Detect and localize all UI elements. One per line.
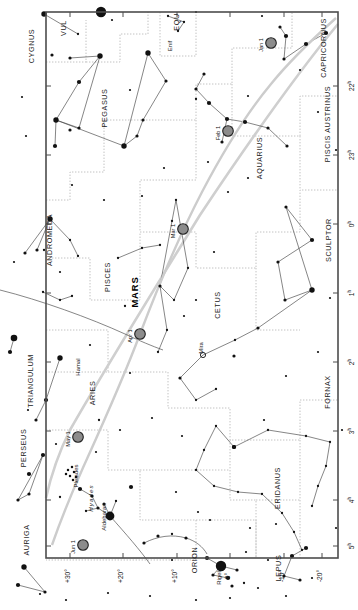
star xyxy=(257,587,259,589)
star xyxy=(197,511,199,513)
star xyxy=(195,469,197,471)
star xyxy=(341,429,343,431)
mars-marker-label: Jan 1 xyxy=(258,38,264,52)
star xyxy=(178,376,181,379)
star xyxy=(237,491,239,493)
star xyxy=(284,205,287,208)
star xyxy=(247,95,249,97)
star xyxy=(285,144,288,147)
star xyxy=(301,549,303,551)
star xyxy=(97,53,102,58)
star xyxy=(41,453,45,457)
star xyxy=(230,584,233,587)
mars-marker-dot[interactable] xyxy=(135,329,146,340)
star xyxy=(282,57,285,60)
dec-axis-label: 0° xyxy=(224,572,231,579)
star xyxy=(215,388,217,390)
star xyxy=(245,551,247,553)
star xyxy=(267,429,269,431)
star xyxy=(59,299,61,301)
star xyxy=(299,69,301,71)
star xyxy=(195,399,197,401)
mars-marker-label: Jun 1 xyxy=(70,540,76,554)
star xyxy=(267,559,269,561)
star xyxy=(34,418,37,421)
star xyxy=(167,15,169,17)
star-chart-svg: Jan 1Feb 1Mar 1Apr 1May 1Jun 1 22h23h0h1… xyxy=(0,0,358,610)
star xyxy=(225,117,229,121)
constellation-label: LEPUS xyxy=(274,555,283,582)
star xyxy=(156,534,159,537)
constellation-label: ORION xyxy=(190,547,199,574)
star xyxy=(284,34,288,38)
star xyxy=(304,42,308,46)
star xyxy=(129,89,131,91)
star xyxy=(175,199,177,201)
star xyxy=(234,339,236,341)
star xyxy=(71,295,73,297)
star xyxy=(59,271,61,273)
star xyxy=(21,564,26,569)
star xyxy=(157,351,159,353)
star xyxy=(55,443,57,445)
constellation-label: ERIDANUS xyxy=(273,467,282,509)
star xyxy=(215,425,217,427)
constellation-label: ANDROMEDA xyxy=(45,214,54,266)
star xyxy=(278,25,281,28)
constellation-label: FORNAX xyxy=(323,375,332,409)
star xyxy=(317,351,319,353)
star xyxy=(195,299,197,301)
dec-axis-label: +20° xyxy=(117,569,124,583)
star xyxy=(243,120,247,124)
star xyxy=(229,597,231,599)
mars-marker-dot[interactable] xyxy=(178,224,189,235)
star xyxy=(25,135,27,137)
star xyxy=(107,592,109,594)
mars-marker-dot[interactable] xyxy=(78,540,89,551)
star-label: Mira xyxy=(198,342,204,354)
star xyxy=(317,111,319,113)
star xyxy=(53,144,57,148)
mars-marker-dot[interactable] xyxy=(73,432,84,443)
constellation-label: PISCIS AUSTRINUS xyxy=(323,86,332,162)
star xyxy=(23,251,26,254)
star xyxy=(50,53,53,56)
star xyxy=(311,577,313,579)
star xyxy=(27,492,30,495)
star xyxy=(261,493,263,495)
star xyxy=(173,299,175,301)
star xyxy=(304,546,308,550)
star xyxy=(149,595,151,597)
pleiades-star xyxy=(69,475,72,478)
star xyxy=(95,451,97,453)
star-rigel xyxy=(216,561,226,571)
star xyxy=(249,527,251,529)
star-label: Rigel xyxy=(216,571,222,585)
constellation-label: PEGASUS xyxy=(100,89,109,128)
star xyxy=(27,409,29,411)
star xyxy=(211,573,214,576)
star xyxy=(207,161,209,163)
star-chart-root: Jan 1Feb 1Mar 1Apr 1May 1Jun 1 22h23h0h1… xyxy=(0,0,358,610)
mars-marker-label: May 1 xyxy=(65,431,71,446)
star xyxy=(77,255,79,257)
star xyxy=(266,126,269,129)
star xyxy=(117,257,119,259)
dec-axis-label: +10° xyxy=(171,569,178,583)
mars-marker-label: Apr 1 xyxy=(127,329,133,342)
star xyxy=(119,429,121,431)
star-enif xyxy=(145,50,150,55)
star xyxy=(171,220,173,222)
star xyxy=(111,19,113,21)
star xyxy=(142,541,145,544)
star xyxy=(71,184,73,186)
pleiades-star xyxy=(67,469,70,472)
star xyxy=(213,251,215,253)
star xyxy=(247,177,249,179)
star xyxy=(171,559,173,561)
star xyxy=(317,485,319,487)
mars-marker-dot[interactable] xyxy=(266,38,277,49)
mars-marker-dot[interactable] xyxy=(223,126,234,137)
star xyxy=(8,350,12,354)
star xyxy=(194,87,197,90)
